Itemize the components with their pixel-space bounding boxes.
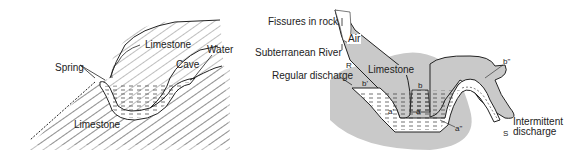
- label-r: R: [346, 62, 352, 70]
- label-limestone-top: Limestone: [145, 40, 191, 50]
- label-subterranean-river: Subterranean River: [255, 48, 342, 58]
- label-b: b: [418, 82, 422, 90]
- label-a-prime: a': [388, 108, 394, 116]
- label-limestone-bottom: Limestone: [74, 120, 120, 130]
- label-spring: Spring: [55, 63, 84, 73]
- label-a: a: [416, 108, 420, 116]
- label-discharge: discharge: [513, 127, 556, 137]
- label-b-prime: b': [362, 80, 368, 88]
- label-regular-discharge: Regular discharge: [272, 71, 353, 81]
- label-s: S: [503, 130, 508, 138]
- label-water: Water: [207, 45, 233, 55]
- right-diagram: [330, 10, 514, 150]
- label-fissures: Fissures in rock: [268, 17, 338, 27]
- label-a-double: a": [455, 125, 462, 133]
- label-cave: Cave: [176, 60, 199, 70]
- left-diagram: [30, 20, 230, 150]
- label-air: Air: [347, 34, 361, 44]
- label-b-double: b": [503, 58, 510, 66]
- label-limestone-right: Limestone: [367, 65, 415, 75]
